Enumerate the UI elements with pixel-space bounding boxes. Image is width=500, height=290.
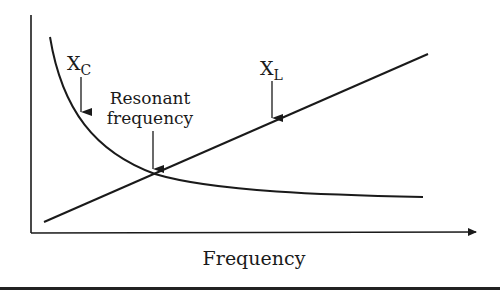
resonant-label-line1: Resonant	[110, 88, 191, 108]
reactance-vs-frequency-diagram: XC Resonant frequency XL Frequency	[0, 0, 500, 290]
resonant-label-line2: frequency	[107, 108, 194, 128]
xl-label: XL	[260, 57, 283, 83]
xc-label: XC	[67, 52, 91, 78]
x-axis	[31, 232, 476, 233]
x-axis-label: Frequency	[203, 247, 306, 269]
xl-line	[44, 54, 428, 222]
